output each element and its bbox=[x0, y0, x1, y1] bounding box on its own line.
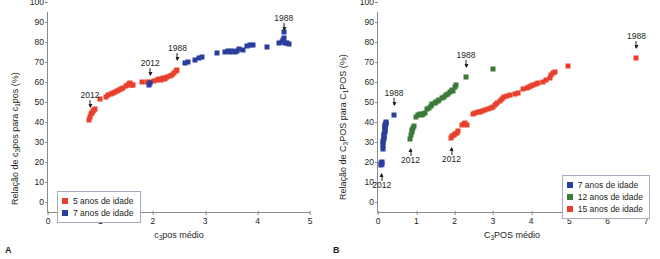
data-point bbox=[634, 56, 639, 61]
x-axis-tick-label: 2 bbox=[452, 216, 457, 226]
x-axis-tick-label: 2 bbox=[150, 216, 155, 226]
data-point bbox=[464, 123, 469, 128]
data-point bbox=[490, 67, 495, 72]
y-axis-tick-label: 0 bbox=[369, 197, 374, 207]
y-axis-tick-label: 30 bbox=[35, 137, 44, 147]
annotation-arrow bbox=[451, 148, 452, 155]
x-axis-tick-mark bbox=[48, 211, 49, 215]
year-annotation-label: 1988 bbox=[385, 88, 404, 98]
year-annotation-label: 2012 bbox=[80, 90, 99, 100]
year-annotation-label: 2012 bbox=[141, 58, 160, 68]
x-axis-tick-label: 3 bbox=[490, 216, 495, 226]
y-axis-tick-mark bbox=[375, 142, 378, 143]
panel-a: Relação de c3pos para c1pos (%) c3pos mé… bbox=[0, 0, 330, 259]
x-axis-tick-mark bbox=[416, 211, 417, 215]
panel-a-plot-area: c3pos médio 0102030405060708090100012345… bbox=[47, 12, 310, 213]
y-axis-subscript-1: 1 bbox=[342, 90, 349, 94]
data-point bbox=[464, 75, 469, 80]
legend-label: 5 anos de idade bbox=[73, 196, 134, 206]
y-axis-tick-mark bbox=[45, 122, 48, 123]
panel-a-y-axis-title: Relação de c3pos para c1pos (%) bbox=[10, 72, 21, 205]
y-axis-tick-label: 80 bbox=[35, 37, 44, 47]
x-axis-tick-label: 5 bbox=[308, 216, 313, 226]
year-annotation-label: 2012 bbox=[372, 180, 391, 190]
annotation-arrow bbox=[381, 174, 382, 181]
panel-a-legend: 5 anos de idade7 anos de idade bbox=[57, 191, 141, 223]
y-axis-title-part: POS para C bbox=[338, 93, 348, 142]
y-axis-tick-mark bbox=[45, 2, 48, 3]
x-axis-tick-mark bbox=[205, 211, 206, 215]
x-axis-tick-label: 4 bbox=[255, 216, 260, 226]
y-axis-tick-mark bbox=[375, 82, 378, 83]
y-axis-title-part: pos para c bbox=[10, 107, 20, 149]
y-axis-title-part: pos (%) bbox=[10, 72, 20, 103]
legend-item: 7 anos de idade bbox=[62, 207, 134, 219]
x-axis-tick-mark bbox=[531, 211, 532, 215]
data-point bbox=[214, 51, 219, 56]
y-axis-tick-mark bbox=[375, 2, 378, 3]
year-annotation-label: 1988 bbox=[168, 43, 187, 53]
y-axis-tick-label: 10 bbox=[35, 177, 44, 187]
annotation-arrow bbox=[177, 53, 178, 60]
y-axis-tick-mark bbox=[45, 162, 48, 163]
legend-swatch-icon bbox=[62, 210, 68, 216]
legend-label: 12 anos de idade bbox=[578, 192, 643, 202]
y-axis-tick-label: 50 bbox=[35, 97, 44, 107]
data-point bbox=[287, 42, 292, 47]
x-axis-tick-mark bbox=[258, 211, 259, 215]
y-axis-tick-mark bbox=[375, 202, 378, 203]
y-axis-tick-label: 100 bbox=[30, 0, 44, 7]
y-axis-tick-label: 70 bbox=[365, 57, 374, 67]
y-axis-tick-label: 20 bbox=[365, 157, 374, 167]
data-point bbox=[251, 43, 256, 48]
y-axis-tick-label: 60 bbox=[365, 77, 374, 87]
y-axis-tick-mark bbox=[375, 102, 378, 103]
y-axis-tick-label: 50 bbox=[365, 97, 374, 107]
data-point bbox=[384, 120, 389, 125]
annotation-arrow bbox=[410, 149, 411, 156]
legend-label: 7 anos de idade bbox=[73, 208, 134, 218]
data-point bbox=[507, 93, 512, 98]
y-axis-tick-mark bbox=[45, 202, 48, 203]
data-point bbox=[200, 55, 205, 60]
y-axis-tick-mark bbox=[375, 42, 378, 43]
figure-container: Relação de c3pos para c1pos (%) c3pos mé… bbox=[0, 0, 660, 259]
y-axis-tick-label: 40 bbox=[365, 117, 374, 127]
y-axis-tick-mark bbox=[375, 22, 378, 23]
data-point bbox=[148, 81, 153, 86]
y-axis-tick-label: 60 bbox=[35, 77, 44, 87]
data-point bbox=[93, 107, 98, 112]
y-axis-title-part: Relação de C bbox=[338, 145, 348, 200]
legend-swatch-icon bbox=[567, 182, 573, 188]
year-annotation-label: 1988 bbox=[457, 50, 476, 60]
annotation-arrow bbox=[89, 100, 90, 107]
y-axis-tick-mark bbox=[375, 62, 378, 63]
y-axis-tick-label: 100 bbox=[360, 0, 374, 7]
data-point bbox=[454, 83, 459, 88]
year-annotation-label: 1988 bbox=[627, 31, 646, 41]
y-axis-tick-label: 20 bbox=[35, 157, 44, 167]
legend-swatch-icon bbox=[567, 194, 573, 200]
y-axis-subscript-1: 1 bbox=[14, 103, 21, 107]
panel-b-letter: B bbox=[333, 245, 340, 255]
x-axis-tick-label: 0 bbox=[376, 216, 381, 226]
x-axis-tick-label: 3 bbox=[203, 216, 208, 226]
annotation-arrow bbox=[150, 68, 151, 75]
data-point bbox=[565, 64, 570, 69]
annotation-arrow bbox=[636, 41, 637, 48]
year-annotation-label: 2012 bbox=[442, 154, 461, 164]
year-annotation-label: 2012 bbox=[401, 155, 420, 165]
x-axis-tick-mark bbox=[455, 211, 456, 215]
legend-item: 5 anos de idade bbox=[62, 195, 134, 207]
legend-swatch-icon bbox=[567, 206, 573, 212]
data-point bbox=[175, 68, 180, 73]
data-point bbox=[186, 60, 191, 65]
y-axis-tick-mark bbox=[375, 122, 378, 123]
annotation-arrow bbox=[283, 23, 284, 30]
x-axis-tick-label: 4 bbox=[529, 216, 534, 226]
legend-label: 7 anos de idade bbox=[578, 180, 639, 190]
y-axis-tick-label: 80 bbox=[365, 37, 374, 47]
x-axis-tick-mark bbox=[493, 211, 494, 215]
y-axis-tick-label: 90 bbox=[365, 17, 374, 27]
y-axis-tick-label: 30 bbox=[365, 137, 374, 147]
